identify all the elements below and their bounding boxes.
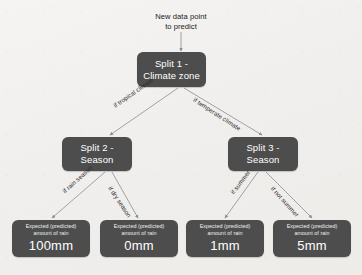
- leaf-caption-line2: amount of rain: [33, 230, 68, 237]
- leaf-value-100mm: 100mm: [29, 238, 73, 253]
- leaf-caption-line1: Expected (predicted): [26, 223, 77, 230]
- leaf-node-0mm[interactable]: Expected (predicted) amount of rain 0mm: [100, 220, 178, 257]
- leaf-caption-line1: Expected (predicted): [200, 223, 251, 230]
- root-label-line2: to predict: [140, 22, 222, 32]
- leaf-caption-line2: amount of rain: [121, 230, 156, 237]
- node-split-3-line1: Split 3 -: [246, 142, 279, 154]
- leaf-value-0mm: 0mm: [124, 238, 154, 253]
- leaf-caption-line1: Expected (predicted): [114, 223, 165, 230]
- decision-tree-diagram: New data point to predict Split 1 - Clim…: [0, 0, 362, 275]
- root-input-label: New data point to predict: [140, 12, 222, 31]
- leaf-node-1mm[interactable]: Expected (predicted) amount of rain 1mm: [186, 220, 264, 257]
- leaf-value-1mm: 1mm: [210, 238, 240, 253]
- leaf-caption-line2: amount of rain: [207, 230, 242, 237]
- node-split-2-line2: Season: [81, 154, 114, 166]
- node-split-2-line1: Split 2 -: [80, 142, 113, 154]
- node-split-3-line2: Season: [247, 154, 280, 166]
- leaf-value-5mm: 5mm: [297, 238, 327, 253]
- leaf-caption-line2: amount of rain: [294, 230, 329, 237]
- node-split-2[interactable]: Split 2 - Season: [62, 137, 132, 171]
- connector-split1-to-split2: [110, 88, 178, 135]
- node-split-1-line1: Split 1 -: [155, 58, 188, 70]
- leaf-caption-line1: Expected (predicted): [287, 223, 338, 230]
- node-split-3[interactable]: Split 3 - Season: [228, 137, 298, 171]
- leaf-node-5mm[interactable]: Expected (predicted) amount of rain 5mm: [273, 220, 351, 257]
- root-label-line1: New data point: [140, 12, 222, 22]
- leaf-node-100mm[interactable]: Expected (predicted) amount of rain 100m…: [12, 220, 90, 257]
